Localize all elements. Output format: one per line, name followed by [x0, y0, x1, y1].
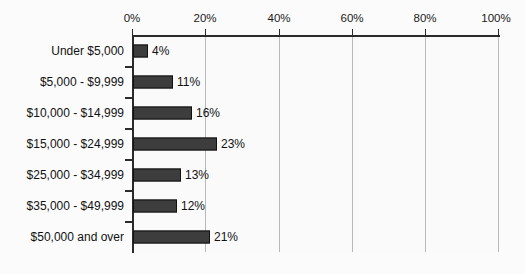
bar-2	[133, 107, 192, 120]
bar-value-6: 21%	[214, 230, 238, 244]
x-tick-mark-80	[425, 29, 426, 36]
bar-1	[133, 76, 173, 89]
bar-value-0: 4%	[152, 44, 169, 58]
bar-6	[133, 231, 210, 244]
x-tick-label-100: 100%	[481, 12, 510, 24]
x-tick-mark-100	[498, 29, 499, 36]
bar-value-5: 12%	[181, 199, 205, 213]
x-tick-label-0: 0%	[124, 12, 141, 24]
y-tick-mark-3	[125, 128, 133, 130]
x-axis-line	[132, 35, 500, 37]
x-tick-mark-20	[205, 29, 206, 36]
gridline-100	[498, 35, 499, 252]
gridline-60	[352, 35, 353, 252]
bar-3	[133, 138, 217, 151]
y-tick-mark-1	[125, 66, 133, 68]
bar-value-3: 23%	[221, 137, 245, 151]
y-tick-mark-2	[125, 97, 133, 99]
x-tick-label-80: 80%	[413, 12, 436, 24]
category-label-6: $50,000 and over	[0, 230, 124, 244]
x-tick-label-40: 40%	[267, 12, 290, 24]
category-label-2: $10,000 - $14,999	[0, 106, 124, 120]
category-label-4: $25,000 - $34,999	[0, 168, 124, 182]
bar-value-4: 13%	[185, 168, 209, 182]
bar-value-1: 11%	[177, 75, 200, 89]
bar-5	[133, 200, 177, 213]
x-tick-label-20: 20%	[193, 12, 216, 24]
bar-chart: 0% 20% 40% 60% 80% 100% Under $5,000 4% …	[0, 0, 525, 274]
x-tick-mark-60	[352, 29, 353, 36]
bar-value-2: 16%	[196, 106, 220, 120]
gridline-40	[279, 35, 280, 252]
y-tick-mark-4	[125, 159, 133, 161]
x-tick-mark-0	[132, 29, 133, 36]
gridline-80	[425, 35, 426, 252]
y-tick-mark-6	[125, 221, 133, 223]
bar-4	[133, 169, 181, 182]
x-tick-label-60: 60%	[340, 12, 363, 24]
y-tick-mark-5	[125, 190, 133, 192]
x-tick-mark-40	[279, 29, 280, 36]
bar-0	[133, 45, 148, 58]
category-label-0: Under $5,000	[0, 44, 124, 58]
category-label-3: $15,000 - $24,999	[0, 137, 124, 151]
category-label-5: $35,000 - $49,999	[0, 199, 124, 213]
category-label-1: $5,000 - $9,999	[0, 75, 124, 89]
